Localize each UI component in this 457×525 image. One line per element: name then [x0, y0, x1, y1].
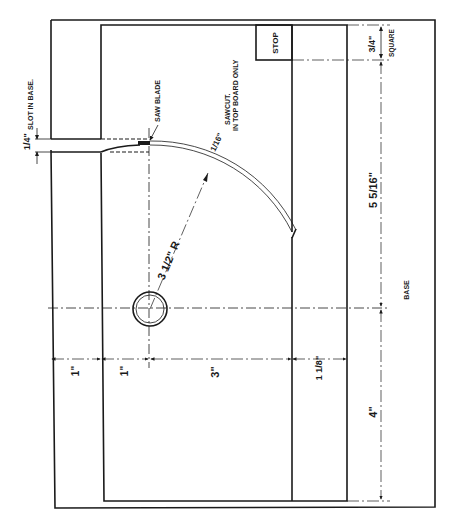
saw-blade-leader — [150, 125, 158, 140]
saw-blade-hidden-lines — [101, 139, 150, 152]
sawcut-fraction-label: 1/16" — [209, 131, 225, 153]
radius-label: 3 1/2" R — [155, 239, 182, 281]
slot-in-base — [35, 128, 101, 164]
saw-blade-label: SAW BLADE — [154, 80, 161, 122]
dim-4-label: 4" — [367, 406, 379, 417]
base-label: BASE — [403, 280, 410, 300]
dim-1-1-8-label: 1 1/8" — [314, 356, 324, 380]
square-text-label: SQUARE — [388, 28, 396, 56]
base-outline — [51, 20, 435, 508]
radius-leader — [150, 173, 208, 309]
technical-drawing: STOP 1/4" SLOT IN BASE. SAW BLADE 1/16" … — [0, 0, 457, 525]
square-fraction-label: 3/4" — [367, 36, 377, 53]
slot-fraction-label: 1/4" — [22, 133, 32, 150]
dim-1-label-b: 1" — [119, 366, 130, 377]
dimension-chain-vertical — [292, 25, 390, 501]
sawcut-text-line2: IN TOP BOARD ONLY — [232, 59, 239, 131]
dim-1-label-a: 1" — [70, 366, 81, 377]
dim-5-5-16-label: 5 5/16" — [367, 172, 379, 208]
sawcut-text-line1: SAWCUT. — [224, 93, 231, 125]
stop-label: STOP — [271, 32, 280, 54]
sawcut-arc — [150, 141, 296, 238]
dim-3-label: 3" — [209, 366, 221, 377]
slot-text-label: SLOT IN BASE. — [27, 79, 34, 130]
